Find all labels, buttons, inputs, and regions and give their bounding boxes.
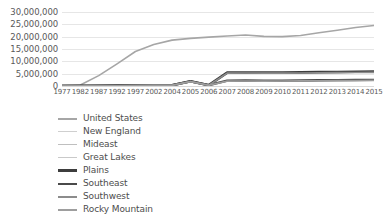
gridline bbox=[62, 86, 374, 87]
legend-item[interactable]: Mideast bbox=[58, 138, 258, 151]
series-line bbox=[62, 26, 374, 86]
x-axis-tick-label: 2009 bbox=[255, 88, 272, 97]
x-axis-tick-label: 2005 bbox=[182, 88, 199, 97]
x-axis-tick-label: 2010 bbox=[274, 88, 291, 97]
x-axis-tick-label: 1987 bbox=[90, 88, 107, 97]
x-axis-labels: 1977198219871992199720022004200520062007… bbox=[62, 88, 374, 102]
line-chart: 30,000,00025,000,00020,000,00015,000,000… bbox=[0, 0, 384, 220]
x-axis-tick-label: 2008 bbox=[237, 88, 254, 97]
x-axis-tick-label: 1982 bbox=[72, 88, 89, 97]
x-axis-tick-label: 1977 bbox=[53, 88, 70, 97]
x-axis-tick-label: 2013 bbox=[329, 88, 346, 97]
legend-item[interactable]: New England bbox=[58, 125, 258, 138]
legend-label: New England bbox=[83, 126, 141, 137]
legend-swatch-icon bbox=[58, 209, 77, 211]
series-lines bbox=[62, 12, 374, 86]
chart-legend: United StatesNew EnglandMideastGreat Lak… bbox=[58, 112, 258, 216]
legend-label: Plains bbox=[83, 165, 109, 176]
y-axis-tick-label: 10,000,000 bbox=[10, 57, 58, 66]
legend-item[interactable]: Southwest bbox=[58, 190, 258, 203]
y-axis-tick-label: 5,000,000 bbox=[16, 69, 58, 78]
y-axis-tick-label: 15,000,000 bbox=[10, 45, 58, 54]
x-axis-tick-label: 2015 bbox=[365, 88, 382, 97]
legend-label: Southeast bbox=[83, 178, 128, 189]
legend-item[interactable]: Great Lakes bbox=[58, 151, 258, 164]
y-axis-tick-label: 25,000,000 bbox=[10, 20, 58, 29]
legend-swatch-icon bbox=[58, 144, 77, 145]
legend-label: Rocky Mountain bbox=[83, 204, 153, 215]
y-axis-labels: 30,000,00025,000,00020,000,00015,000,000… bbox=[0, 0, 58, 108]
legend-item[interactable]: Rocky Mountain bbox=[58, 203, 258, 216]
x-axis-tick-label: 2004 bbox=[164, 88, 181, 97]
legend-swatch-icon bbox=[58, 196, 77, 198]
x-axis-tick-label: 2006 bbox=[200, 88, 217, 97]
series-line bbox=[62, 80, 374, 86]
legend-item[interactable]: Southeast bbox=[58, 177, 258, 190]
y-axis-tick-label: 20,000,000 bbox=[10, 32, 58, 41]
x-axis-tick-label: 2012 bbox=[310, 88, 327, 97]
x-axis-tick-label: 2011 bbox=[292, 88, 309, 97]
legend-label: Southwest bbox=[83, 191, 129, 202]
legend-item[interactable]: Plains bbox=[58, 164, 258, 177]
x-axis-tick-label: 2014 bbox=[347, 88, 364, 97]
plot-area bbox=[62, 12, 374, 86]
legend-swatch-icon bbox=[58, 183, 77, 185]
legend-swatch-icon bbox=[58, 169, 77, 172]
x-axis-tick-label: 1997 bbox=[127, 88, 144, 97]
y-axis-tick-label: 30,000,000 bbox=[10, 8, 58, 17]
legend-label: United States bbox=[83, 113, 143, 124]
legend-label: Great Lakes bbox=[83, 152, 135, 163]
legend-label: Mideast bbox=[83, 139, 118, 150]
legend-swatch-icon bbox=[58, 131, 77, 132]
x-axis-tick-label: 2002 bbox=[145, 88, 162, 97]
legend-item[interactable]: United States bbox=[58, 112, 258, 125]
plot-wrapper: 30,000,00025,000,00020,000,00015,000,000… bbox=[0, 0, 384, 108]
legend-swatch-icon bbox=[58, 118, 77, 120]
x-axis-tick-label: 2007 bbox=[219, 88, 236, 97]
legend-swatch-icon bbox=[58, 157, 77, 158]
x-axis-tick-label: 1992 bbox=[108, 88, 125, 97]
